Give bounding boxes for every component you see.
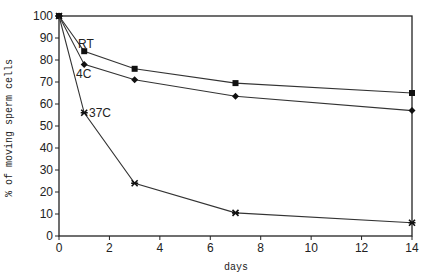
x-tick-label: 8 [257,241,264,255]
diamond-marker-icon [131,76,138,83]
x-tick-label: 10 [304,241,318,255]
y-tick-label: 70 [40,75,54,89]
x-tick-label: 2 [106,241,113,255]
square-marker-icon [409,90,415,96]
x-tick-label: 4 [157,241,164,255]
square-marker-icon [132,66,138,72]
series-label-37c: 37C [89,106,111,120]
y-tick-label: 40 [40,141,54,155]
plot-frame [59,16,412,236]
y-tick-label: 30 [40,163,54,177]
y-tick-label: 0 [46,229,53,243]
series-label-4c: 4C [76,67,92,81]
series-rt [56,13,415,96]
x-tick-label: 14 [405,241,419,255]
line-chart: 010203040506070809010002468101214 RT 4C … [0,0,423,279]
square-marker-icon [233,80,239,86]
y-tick-label: 60 [40,97,54,111]
x-tick-label: 12 [355,241,369,255]
x-tick-label: 6 [207,241,214,255]
diamond-marker-icon [409,107,416,114]
y-tick-label: 100 [33,9,53,23]
series-4c [56,13,416,115]
y-tick-label: 10 [40,207,54,221]
series-line [59,16,412,223]
x-tick-label: 0 [56,241,63,255]
y-tick-label: 90 [40,31,54,45]
x-axis-title: days [224,262,248,273]
y-tick-label: 20 [40,185,54,199]
y-tick-label: 80 [40,53,54,67]
star-marker-icon [232,210,239,216]
y-tick-label: 50 [40,119,54,133]
diamond-marker-icon [232,93,239,100]
y-axis-title: % of moving sperm cells [4,59,15,197]
star-marker-icon [131,180,138,186]
series-label-rt: RT [78,37,94,51]
